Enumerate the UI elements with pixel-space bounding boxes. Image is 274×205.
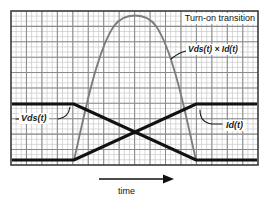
switching-waveform-figure: Turn-on transition Vds(t) Id(t) Vds(t) ×… [0, 0, 274, 205]
waveform-plot-svg [0, 0, 274, 205]
power-product-label: Vds(t) × Id(t) [186, 44, 240, 55]
chart-title: Turn-on transition [182, 13, 257, 24]
id-label: Id(t) [224, 120, 245, 131]
vds-label: Vds(t) [19, 113, 49, 124]
time-axis-label: time [118, 186, 135, 196]
time-axis-arrow [99, 175, 174, 184]
